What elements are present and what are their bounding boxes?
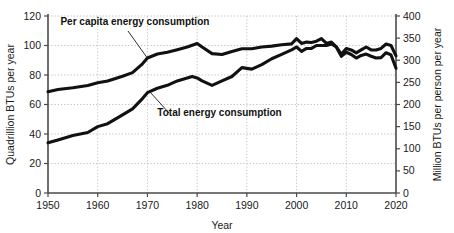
tick-label-left: 40 bbox=[29, 128, 41, 140]
tick-label-left: 60 bbox=[29, 98, 41, 110]
tick-label-right: 50 bbox=[403, 164, 415, 176]
tick-label-x: 2010 bbox=[335, 199, 359, 211]
axis-title-x: Year bbox=[211, 219, 233, 231]
tick-label-x: 1950 bbox=[36, 199, 60, 211]
tick-label-x: 2000 bbox=[285, 199, 309, 211]
tick-label-x: 1990 bbox=[235, 199, 259, 211]
tick-label-x: 1970 bbox=[136, 199, 160, 211]
tick-label-left: 80 bbox=[29, 69, 41, 81]
tick-label-right: 400 bbox=[403, 10, 421, 22]
tick-label-left: 20 bbox=[29, 157, 41, 169]
per-capita-annotation: Per capita energy consumption bbox=[60, 16, 209, 27]
tick-label-right: 0 bbox=[403, 187, 409, 199]
tick-label-right: 250 bbox=[403, 76, 421, 88]
axis-title-left: Quadrillion BTUs per year bbox=[4, 44, 16, 165]
tick-label-right: 350 bbox=[403, 32, 421, 44]
tick-label-left: 100 bbox=[23, 39, 41, 51]
tick-label-right: 100 bbox=[403, 142, 421, 154]
tick-label-x: 1960 bbox=[86, 199, 110, 211]
leader-line-per-capita bbox=[128, 31, 148, 59]
tick-label-right: 300 bbox=[403, 54, 421, 66]
series-line-per-capita bbox=[48, 39, 396, 92]
tick-label-right: 200 bbox=[403, 98, 421, 110]
tick-label-left: 0 bbox=[35, 187, 41, 199]
tick-label-right: 150 bbox=[403, 120, 421, 132]
axis-title-right: Million BTUs per person per year bbox=[431, 27, 443, 181]
tick-label-x: 1980 bbox=[185, 199, 209, 211]
total-annotation: Total energy consumption bbox=[157, 107, 281, 118]
chart-canvas: 0204060801001200501001502002503003504001… bbox=[0, 0, 454, 233]
energy-consumption-chart: 0204060801001200501001502002503003504001… bbox=[0, 0, 454, 233]
series-line-total bbox=[48, 44, 396, 143]
tick-label-left: 120 bbox=[23, 10, 41, 22]
tick-label-x: 2020 bbox=[384, 199, 408, 211]
